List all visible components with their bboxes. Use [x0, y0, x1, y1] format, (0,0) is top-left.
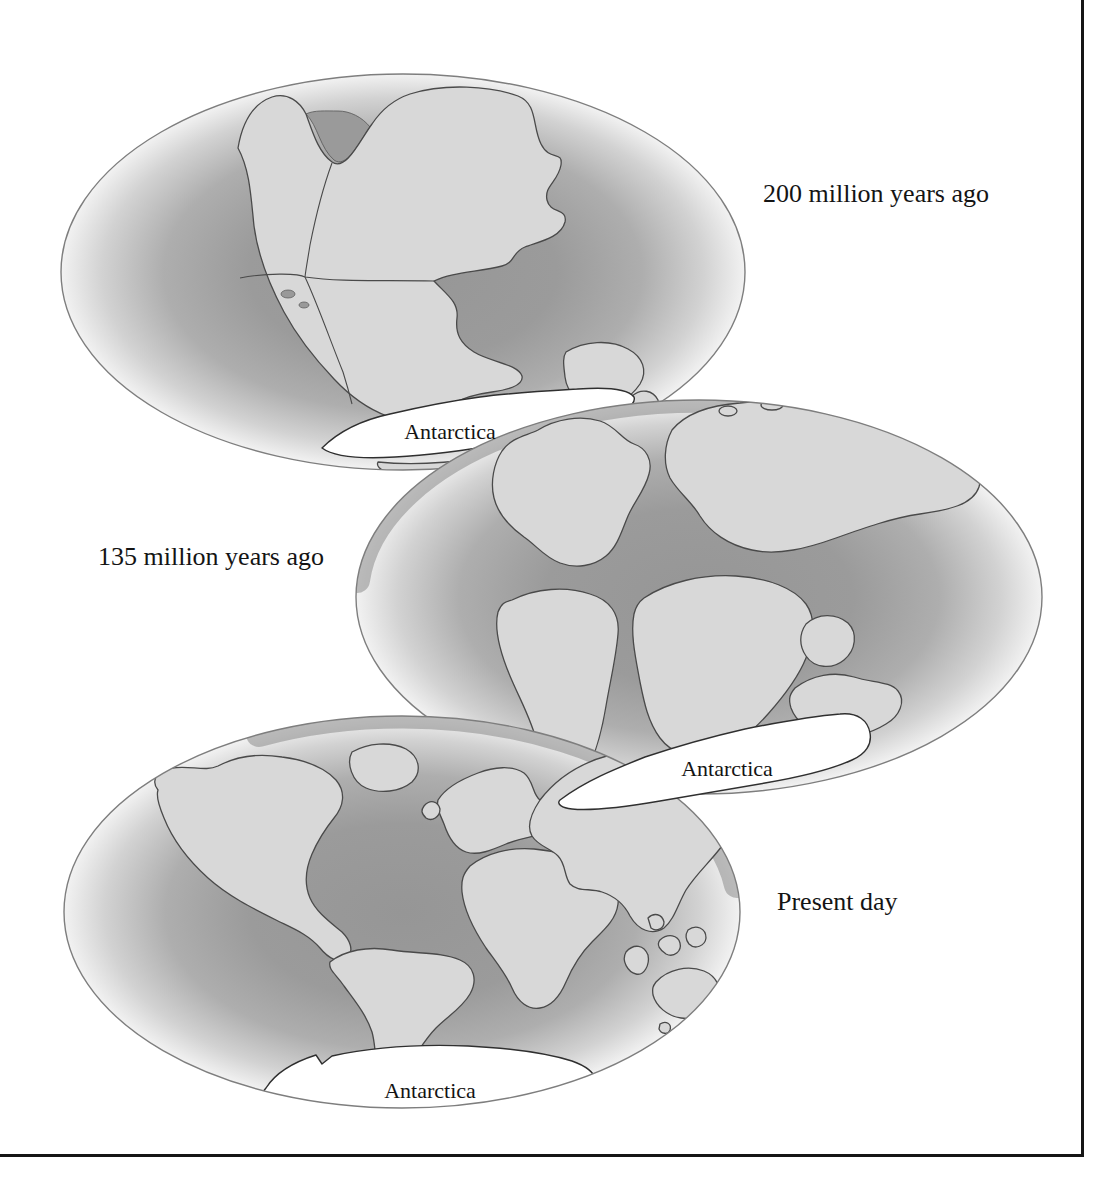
antarctica-label-200mya: Antarctica [404, 419, 496, 444]
figure-border-right [1081, 0, 1084, 1157]
time-label-135mya: 135 million years ago [98, 542, 324, 571]
arctic-island [719, 406, 737, 416]
gulf-inlet-small [299, 302, 309, 308]
southeast-asia-island-2 [686, 927, 706, 947]
time-label-present: Present day [777, 887, 898, 916]
figure-border-bottom [0, 1154, 1084, 1157]
southeast-asia-island-3 [648, 915, 664, 930]
antarctica-label-135mya: Antarctica [681, 756, 773, 781]
greenland [350, 744, 419, 791]
british-isles [422, 802, 440, 820]
continental-drift-figure: 200 million years ago 135 million years … [0, 0, 1116, 1203]
time-label-200mya: 200 million years ago [763, 179, 989, 208]
antarctica-label-present: Antarctica [384, 1078, 476, 1103]
new-zealand [699, 1040, 716, 1056]
gulf-inlet [281, 290, 295, 298]
